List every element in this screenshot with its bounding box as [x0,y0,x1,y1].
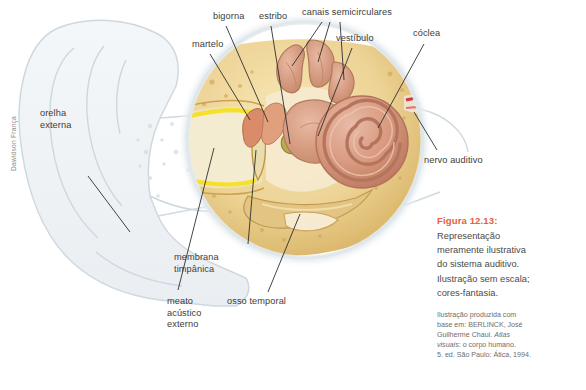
label-bigorna: bigorna [213,11,244,23]
figure-ear-anatomy: bigorna estribo canais semicirculares ve… [0,0,586,390]
label-meato-acustico-externo: meato acústico externo [167,296,202,331]
source-title-visuais: visuais [437,341,459,349]
label-membrana-timpanica: membrana timpânica [174,252,219,275]
label-nervo-auditivo: nervo auditivo [424,155,483,167]
label-estribo: estribo [259,11,287,23]
figure-source-credit: Ilustração produzida com base em: BERLIN… [437,311,583,361]
source-line-1: Ilustração produzida com [437,311,516,319]
label-canais-semicirculares: canais semicirculares [302,7,392,19]
source-title-atlas: Atlas [494,331,510,339]
illustrator-credit: Dawidson França [10,109,17,179]
label-orelha-externa: orelha externa [40,108,71,131]
figure-caption: Figura 12.13: Representação meramente il… [437,214,583,361]
source-line-5: 5. ed. São Paulo: Ática, 1994. [437,351,531,359]
label-martelo: martelo [192,39,223,51]
source-line-2: base em: BERLINCK, José [437,321,523,329]
label-vestibulo: vestíbulo [336,33,374,45]
figure-caption-body: Representação meramente ilustrativa do s… [437,229,583,300]
figure-caption-title: Figura 12.13: [437,214,583,228]
label-osso-temporal: osso temporal [227,296,286,308]
source-line-3-pre: Guilherme Chaui. [437,331,494,339]
source-line-4-post: : o corpo humano. [459,341,516,349]
label-coclea: cóclea [413,28,440,40]
